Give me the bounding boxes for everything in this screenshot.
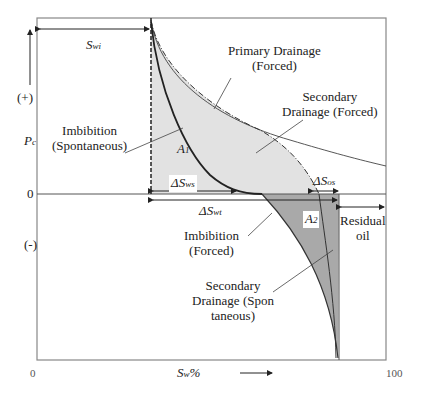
area-a1-label: A1 <box>175 141 191 158</box>
area-a2-label: A2 <box>303 211 319 228</box>
secondary-drainage-forced-label: Secondary Drainage (Forced) <box>282 89 378 119</box>
y-axis-label: Pc <box>24 133 36 150</box>
dswt-label: ΔSwt <box>199 203 222 220</box>
leader-primary-drainage <box>214 78 231 109</box>
x-max-label: 100 <box>386 366 403 381</box>
y-zero-label: 0 <box>27 186 34 201</box>
y-negative-label: (-) <box>24 237 37 252</box>
dsos-label: ΔSos <box>313 173 335 190</box>
area-a2 <box>262 194 339 358</box>
x-axis-label: Sw% <box>177 365 200 382</box>
imbibition-spontaneous-label: Imbibition (Spontaneous) <box>52 123 127 153</box>
x-min-label: 0 <box>30 366 36 381</box>
secondary-drainage-spontaneous-label: Secondary Drainage (Spon taneous) <box>192 278 274 323</box>
primary-drainage-label: Primary Drainage (Forced) <box>228 43 321 73</box>
diagram-canvas <box>0 0 421 395</box>
y-positive-label: (+) <box>17 90 33 105</box>
swi-label: Swi <box>86 37 101 54</box>
leader-imbibition-forced <box>248 213 272 236</box>
residual-oil-label: Residual oil <box>340 213 386 243</box>
dsws-label: ΔSws <box>169 175 197 192</box>
imbibition-forced-label: Imbibition (Forced) <box>184 228 239 258</box>
